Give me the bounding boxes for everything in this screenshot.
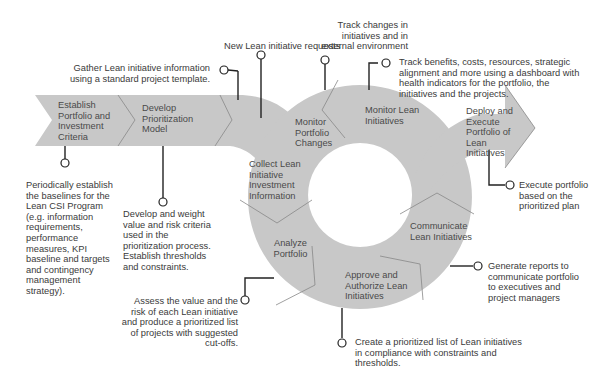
- stage-monitor-portfolio: Monitor Portfolio Changes: [295, 117, 340, 149]
- stage-establish: Establish Portfolio and Investment Crite…: [58, 100, 118, 142]
- annotation-establish: Periodically establish the baselines for…: [26, 180, 121, 297]
- annotation-assess: Assess the value and the risk of each Le…: [118, 296, 238, 349]
- annotation-execute: Execute portfolio based on the prioritiz…: [519, 180, 589, 212]
- annotation-generate-reports: Generate reports to communicate portfoli…: [488, 261, 588, 303]
- stage-monitor-lean: Monitor Lean Initiatives: [365, 105, 425, 126]
- annotation-develop: Develop and weight value and risk criter…: [123, 209, 218, 273]
- annotation-create-list: Create a prioritized list of Lean initia…: [355, 337, 525, 369]
- annotation-gather: Gather Lean initiative information using…: [65, 63, 210, 84]
- annotation-track-benefits: Track benefits, costs, resources, strate…: [399, 57, 584, 99]
- stage-communicate: Communicate Lean Initiatives: [410, 221, 480, 242]
- stage-approve: Approve and Authorize Lean Initiatives: [345, 270, 413, 302]
- stage-collect: Collect Lean Initiative Investment Infor…: [249, 159, 324, 201]
- annotation-track-changes: Track changes in initiatives and in exte…: [308, 20, 408, 52]
- stage-analyze: Analyze Portfolio: [268, 238, 313, 259]
- stage-develop: Develop Prioritization Model: [142, 103, 202, 135]
- stage-deploy: Deploy and Execute Portfolio of Lean Ini…: [466, 106, 516, 159]
